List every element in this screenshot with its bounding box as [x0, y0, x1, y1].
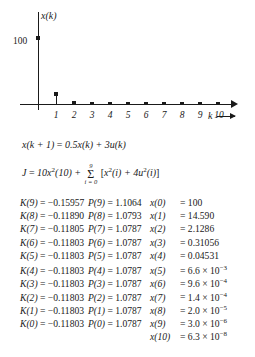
riccati-label: P(7): [88, 223, 105, 234]
summation-lower-limit: i = 0: [84, 179, 97, 185]
riccati-value: 1.0787: [115, 223, 141, 234]
cost-bracket-close: ]: [156, 167, 159, 178]
state-value: 100: [188, 197, 202, 208]
x-axis-arrowhead: [231, 100, 238, 108]
state-equals: =: [180, 331, 185, 342]
table-row: K(1) = −0.11803P(1) = 1.0787x(8)= 2.0 × …: [20, 302, 250, 315]
state-label: x(4): [150, 249, 180, 262]
table-row: K(8) = −0.11890P(8) = 1.0793x(1)= 14.590: [20, 209, 250, 222]
state-label: x(0): [150, 196, 180, 209]
riccati-label: P(2): [88, 292, 105, 303]
riccati-cell: P(5) = 1.0787: [88, 249, 150, 262]
gain-cell: K(5) = −0.11803: [20, 249, 88, 262]
state-exponent: −8: [220, 330, 227, 338]
x-tick-6: 6: [144, 110, 149, 120]
riccati-equals: =: [107, 223, 112, 234]
table-row: x(10)= 6.3 × 10−8: [20, 328, 250, 341]
gain-value: −0.11803: [48, 250, 84, 261]
state-exponent: −4: [220, 277, 227, 285]
state-exponent: −3: [220, 264, 227, 272]
gain-value: −0.11803: [48, 237, 84, 248]
times-icon: ×: [202, 331, 207, 342]
x-tick-8: 8: [180, 110, 185, 120]
state-cell: x(2)= 2.1286: [150, 222, 250, 235]
gain-label: K(2): [20, 292, 38, 303]
marker-k10: [216, 102, 219, 105]
state-value: 0.04531: [188, 250, 219, 261]
state-label: x(10): [150, 330, 180, 343]
table-row: K(9) = −0.15957P(9) = 1.1064x(0)= 100: [20, 196, 250, 209]
riccati-cell: P(6) = 1.0787: [88, 236, 150, 249]
table-row: K(3) = −0.11803P(3) = 1.0787x(6)= 9.6 × …: [20, 275, 250, 288]
marker-k5: [126, 102, 129, 105]
x-tick-5: 5: [126, 110, 131, 120]
x-tick-4: 4: [108, 110, 113, 120]
state-exponent: −5: [220, 304, 227, 312]
cost-term1-arg: (i) + 4u: [112, 167, 143, 178]
state-value: 0.31056: [188, 237, 219, 248]
riccati-value: 1.0787: [115, 292, 141, 303]
state-value: 6.3 × 10−8: [188, 331, 227, 342]
table-row: K(4) = −0.11803P(4) = 1.0787x(5)= 6.6 × …: [20, 262, 250, 275]
riccati-equals: =: [107, 210, 112, 221]
marker-k1: [54, 92, 57, 95]
state-equals: =: [180, 237, 185, 248]
state-equals: =: [180, 223, 185, 234]
gain-label: K(7): [20, 223, 38, 234]
gain-cell: K(7) = −0.11805: [20, 222, 88, 235]
state-cell: x(4)= 0.04531: [150, 249, 250, 262]
state-label: x(2): [150, 222, 180, 235]
marker-k6: [144, 102, 147, 105]
riccati-value: 1.1064: [115, 197, 141, 208]
table-row: K(0) = −0.11803P(0) = 1.0787x(9)= 3.0 × …: [20, 315, 250, 328]
gain-label: K(5): [20, 250, 38, 261]
y-axis-label: x(k): [41, 10, 57, 21]
gain-equals: =: [40, 237, 45, 248]
riccati-equals: =: [107, 237, 112, 248]
state-value: 2.1286: [188, 223, 214, 234]
stem-plot: x(k) 100 k 1 2 3 4 5 6 7 8 9 10: [0, 0, 255, 125]
gain-value: −0.11890: [48, 210, 84, 221]
gain-cell: K(9) = −0.15957: [20, 196, 88, 209]
state-equation-equals: =: [57, 139, 63, 150]
state-value: 14.590: [188, 210, 214, 221]
gain-value: −0.11803: [48, 292, 84, 303]
results-table: K(9) = −0.15957P(9) = 1.1064x(0)= 100K(8…: [20, 196, 250, 341]
gain-cell: K(8) = −0.11890: [20, 209, 88, 222]
x-tick-9: 9: [198, 110, 203, 120]
riccati-cell: P(7) = 1.0787: [88, 222, 150, 235]
state-cell: x(10)= 6.3 × 10−8: [150, 328, 250, 343]
cost-term2-arg: (i): [147, 167, 156, 178]
marker-k2: [72, 101, 75, 104]
marker-k3: [90, 102, 93, 105]
riccati-cell: P(8) = 1.0793: [88, 209, 150, 222]
riccati-label: P(8): [88, 210, 105, 221]
table-row: K(2) = −0.11803P(2) = 1.0787x(7)= 1.4 × …: [20, 288, 250, 301]
gain-value: −0.15957: [48, 197, 85, 208]
riccati-label: P(6): [88, 237, 105, 248]
gain-equals: =: [40, 197, 45, 208]
state-equation: x(k + 1) = 0.5x(k) + 3u(k): [22, 139, 126, 150]
riccati-value: 1.0793: [115, 210, 141, 221]
riccati-value: 1.0787: [115, 250, 141, 261]
state-equals: =: [180, 210, 185, 221]
table-row: K(5) = −0.11803P(5) = 1.0787x(4)= 0.0453…: [20, 249, 250, 262]
marker-k0: [36, 36, 39, 39]
gain-equals: =: [40, 210, 45, 221]
state-label: x(3): [150, 236, 180, 249]
gain-equals: =: [40, 292, 45, 303]
cost-terminal-term: 10x: [37, 167, 51, 178]
gain-equals: =: [40, 223, 45, 234]
state-equals: =: [180, 250, 185, 261]
state-cell: x(0)= 100: [150, 196, 250, 209]
riccati-value: 1.0787: [115, 237, 141, 248]
x-tick-7: 7: [162, 110, 167, 120]
state-label: x(1): [150, 209, 180, 222]
riccati-equals: =: [107, 250, 112, 261]
riccati-equals: =: [107, 292, 112, 303]
state-cell: x(3)= 0.31056: [150, 236, 250, 249]
gain-cell: K(6) = −0.11803: [20, 236, 88, 249]
cost-lhs: J: [22, 167, 26, 178]
summation-operator: 9 Σ i = 0: [84, 163, 97, 185]
riccati-cell: P(9) = 1.1064: [88, 196, 150, 209]
